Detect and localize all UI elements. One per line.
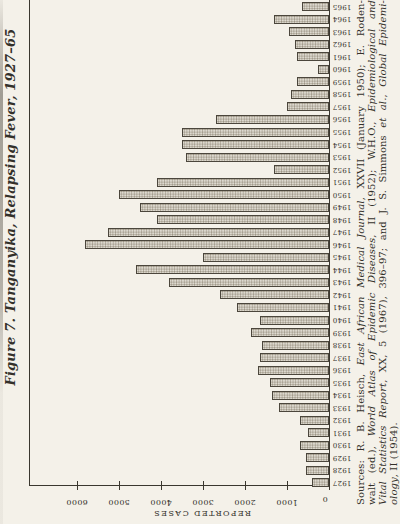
bar-1943 [169, 278, 329, 287]
y-axis-tick-label: 3000 [192, 498, 214, 507]
y-axis-tick [329, 481, 330, 490]
y-axis-tick-label: 2000 [234, 498, 256, 507]
y-axis-tick [245, 481, 246, 490]
y-axis-tick [161, 481, 162, 490]
year-label: 1932 [333, 416, 352, 424]
bar-1931 [308, 428, 329, 437]
bar-1958 [291, 90, 329, 99]
year-label: 1954 [333, 141, 352, 149]
year-label: 1957 [333, 103, 352, 111]
bar-1928 [306, 466, 329, 475]
bar-1953 [186, 153, 329, 162]
year-label: 1947 [333, 228, 352, 236]
bar-1963 [289, 27, 329, 36]
plot-area: 0100020003000400050006000 19271928192919… [0, 0, 356, 524]
year-label: 1958 [333, 91, 352, 99]
bar-1948 [157, 215, 329, 224]
rotated-chart-page: Figure 7. Tanganyika, Relapsing Fever, 1… [0, 0, 400, 524]
bar-1962 [295, 40, 329, 49]
year-label: 1948 [333, 216, 352, 224]
bar-1936 [258, 366, 329, 375]
bar-1935 [270, 378, 329, 387]
year-label: 1942 [333, 291, 352, 299]
sources-italic-segment: ology [388, 477, 399, 505]
bar-1942 [220, 291, 329, 300]
year-label: 1928 [333, 467, 352, 475]
year-label: 1951 [333, 178, 352, 186]
bar-1934 [272, 391, 329, 400]
bar-1927 [312, 479, 329, 488]
bar-1929 [306, 453, 329, 462]
y-axis-tick-label: 6000 [66, 498, 88, 507]
sources-italic-segment: Vital Statistics Report [377, 383, 388, 505]
sources-text-segment: , II (1952); W.H.O., [366, 112, 377, 238]
x-axis-baseline [329, 0, 330, 486]
sources-italic-segment: World Atlas of Epidemic Diseases [366, 238, 377, 437]
bar-1940 [260, 316, 329, 325]
bar-1959 [297, 77, 329, 86]
year-label: 1934 [333, 391, 352, 399]
year-label: 1953 [333, 153, 352, 161]
scan-edge-shadow [0, 0, 3, 524]
year-label: 1961 [333, 53, 352, 61]
year-label: 1939 [333, 329, 352, 337]
year-label: 1962 [333, 40, 352, 48]
bar-1949 [140, 203, 329, 212]
year-label: 1955 [333, 128, 352, 136]
year-label: 1960 [333, 65, 352, 73]
year-label: 1933 [333, 404, 352, 412]
year-label: 1945 [333, 253, 352, 261]
bar-1945 [203, 253, 329, 262]
y-axis-tick-label: 5000 [108, 498, 130, 507]
bar-1937 [260, 353, 329, 362]
bar-1964 [274, 15, 329, 24]
bar-1961 [297, 52, 329, 61]
year-label: 1931 [333, 429, 352, 437]
bar-1933 [279, 403, 329, 412]
year-label: 1946 [333, 241, 352, 249]
y-axis-tick-label: 0 [322, 495, 327, 504]
year-label: 1930 [333, 441, 352, 449]
y-axis-tick-label: 1000 [276, 498, 298, 507]
year-label: 1963 [333, 28, 352, 36]
bar-1939 [251, 328, 329, 337]
bar-1957 [287, 103, 329, 112]
bar-1941 [237, 303, 329, 312]
scanned-book-page: { "page_background": "#f4f1e9", "ink_col… [0, 0, 400, 524]
year-label: 1937 [333, 354, 352, 362]
sources-text-segment: , [377, 87, 388, 98]
sources-italic-segment: East African Medical Journal [355, 200, 366, 365]
year-label: 1956 [333, 116, 352, 124]
sources-italic-segment: Epidemiological and [366, 0, 377, 112]
y-axis-tick [203, 481, 204, 490]
year-label: 1965 [333, 3, 352, 11]
bar-1960 [318, 65, 329, 74]
bar-1932 [300, 416, 329, 425]
bar-1954 [182, 140, 329, 149]
year-label: 1943 [333, 279, 352, 287]
year-label: 1964 [333, 15, 352, 23]
year-label: 1938 [333, 341, 352, 349]
sources-paragraph: Sources: R. B. Heisch, East African Medi… [355, 0, 399, 505]
sources-text-segment: , XX, 5 (1967), 396–97; and J. S. Simmon… [377, 128, 388, 383]
bar-1956 [216, 115, 329, 124]
bar-1952 [274, 165, 329, 174]
year-label: 1949 [333, 203, 352, 211]
year-label: 1941 [333, 304, 352, 312]
year-label: 1950 [333, 191, 352, 199]
bar-1950 [119, 190, 329, 199]
y-axis-tick [77, 481, 78, 490]
bar-1946 [85, 240, 329, 249]
sources-line: Sources: R. B. Heisch, East African Medi… [355, 0, 366, 505]
sources-text-segment: Sources: R. B. Heisch, [355, 365, 366, 505]
bar-1944 [136, 265, 329, 274]
bar-1930 [300, 441, 329, 450]
sources-line: ology, II (1954). [388, 0, 399, 505]
bar-1955 [182, 128, 329, 137]
year-label: 1936 [333, 366, 352, 374]
bar-1947 [108, 228, 329, 237]
year-label: 1952 [333, 166, 352, 174]
y-axis-tick-label: 4000 [150, 498, 172, 507]
year-label: 1944 [333, 266, 352, 274]
sources-text-segment: , XXVII (January 1950); E. Roden- [355, 0, 366, 200]
